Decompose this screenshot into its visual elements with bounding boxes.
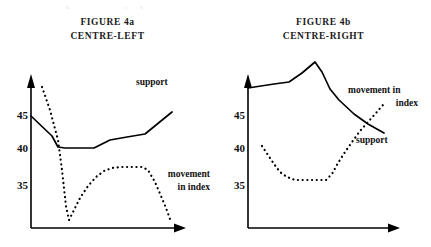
y-tick-label-45-4a: 45 <box>8 109 28 121</box>
series-label-support-4a: support <box>136 77 168 88</box>
y-tick-label-45-4b: 45 <box>225 109 245 121</box>
series-movement-index-4a <box>42 87 170 220</box>
y-axis-4b <box>244 74 252 228</box>
figure-4b-plot <box>216 0 431 247</box>
x-axis-4b <box>248 224 400 233</box>
y-axis-4a <box>27 74 35 228</box>
y-tick-label-40-4b: 40 <box>225 142 245 154</box>
series-label-movement-4a-line1: movement <box>128 169 210 180</box>
series-label-support-4b: support <box>356 135 388 146</box>
x-axis-4a <box>31 224 186 233</box>
y-tick-label-35-4b: 35 <box>225 179 245 191</box>
series-label-movement-4a-line2: in index <box>128 182 210 193</box>
figure-4a-plot <box>0 0 215 247</box>
figure-4b-panel: FIGURE 4b CENTRE-RIGHT 45 <box>216 0 431 247</box>
y-tick-label-40-4a: 40 <box>8 142 28 154</box>
series-label-movement-4b-line2: index <box>348 98 418 109</box>
y-tick-label-35-4a: 35 <box>8 179 28 191</box>
figure-4a-panel: FIGURE 4a CENTRE-LEFT 45 4 <box>0 0 215 247</box>
figure-page: FIGURE 4a CENTRE-LEFT 45 4 <box>0 0 431 247</box>
series-label-movement-4b-line1: movement in <box>348 85 401 96</box>
